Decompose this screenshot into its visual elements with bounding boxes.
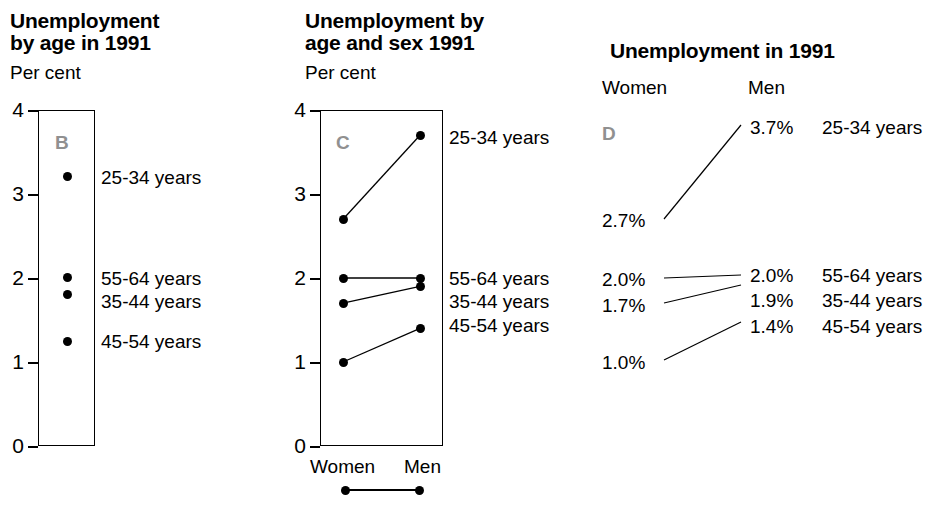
panel-d-age-55-64: 55-64 years [822, 266, 922, 285]
panel-d-age-35-44: 35-44 years [822, 291, 922, 310]
panel-d-colhead-men: Men [748, 78, 785, 97]
panel-d-men-45-54: 1.4% [750, 317, 793, 336]
panel-d: Unemployment in 1991 Women Men D 2.7% 3.… [0, 0, 926, 505]
panel-d-title: Unemployment in 1991 [610, 40, 835, 62]
panel-d-women-45-54: 1.0% [602, 353, 645, 372]
panel-d-women-25-34: 2.7% [602, 211, 645, 230]
panel-d-age-25-34: 25-34 years [822, 118, 922, 137]
panel-d-women-35-44: 1.7% [602, 296, 645, 315]
panel-d-women-55-64: 2.0% [602, 270, 645, 289]
panel-d-colhead-women: Women [602, 78, 667, 97]
panel-d-connector-lines [0, 0, 926, 505]
panel-d-men-35-44: 1.9% [750, 291, 793, 310]
panel-d-age-45-54: 45-54 years [822, 317, 922, 336]
panel-d-men-25-34: 3.7% [750, 118, 793, 137]
panel-d-letter: D [602, 124, 616, 143]
panel-d-men-55-64: 2.0% [750, 266, 793, 285]
